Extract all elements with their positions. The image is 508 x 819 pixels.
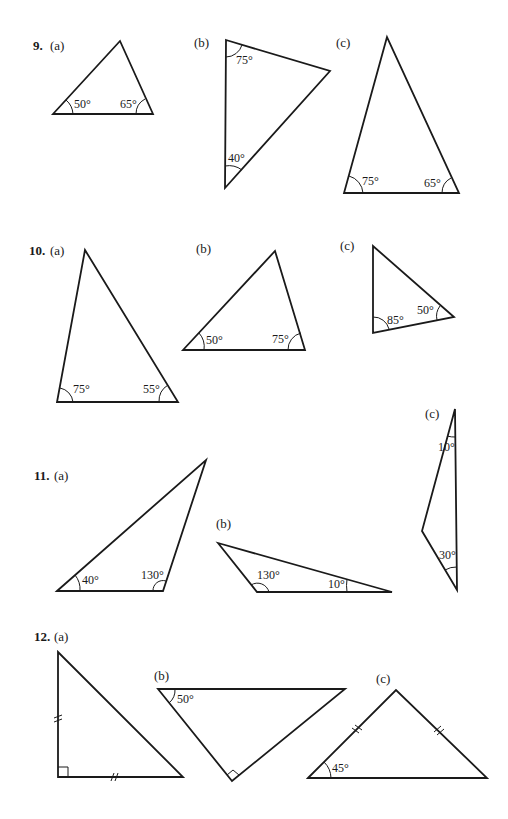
angle-label: 75°	[236, 53, 253, 67]
problem-12: 12. (a) (b) 50° (c) 45°	[34, 629, 487, 781]
angle-label: 45°	[332, 761, 349, 775]
angle-arc	[75, 575, 80, 591]
angle-arc	[199, 333, 204, 350]
problem-10: 10. (a) 75° 55° (b) 50° 75° (c) 85° 50°	[29, 238, 454, 402]
angle-label: 50°	[74, 97, 91, 111]
angle-label: 130°	[141, 568, 164, 582]
angle-label: 50°	[417, 303, 434, 317]
right-angle-mark	[227, 770, 239, 775]
problem-number: 9.	[33, 38, 43, 53]
angle-arc	[60, 388, 73, 402]
angle-label: 40°	[228, 151, 245, 165]
angle-arc	[349, 176, 363, 193]
triangle-shape	[218, 543, 392, 592]
angle-arc	[442, 178, 451, 193]
exercise-sheet: 9. (a) 50° 65° (b) 75° 40° (c) 75° 65°	[0, 0, 508, 819]
angle-label: 130°	[257, 568, 280, 582]
triangle-11b: 130° 10°	[218, 543, 392, 592]
triangle-shape	[422, 409, 457, 590]
angle-arc	[225, 166, 242, 170]
problem-number: 11.	[34, 468, 50, 483]
angle-label: 10°	[438, 440, 455, 454]
problem-9: 9. (a) 50° 65° (b) 75° 40° (c) 75° 65°	[33, 35, 459, 193]
angle-label: 65°	[120, 97, 137, 111]
triangle-11c: 10° 30°	[422, 409, 457, 590]
triangle-10c: 85° 50°	[373, 246, 454, 333]
triangle-shape	[373, 246, 454, 333]
part-label: (c)	[425, 406, 439, 421]
angle-label: 50°	[206, 333, 223, 347]
angle-label: 75°	[362, 174, 379, 188]
problem-number: 10.	[29, 243, 45, 258]
triangle-9b: 75° 40°	[225, 40, 330, 188]
part-label: (a)	[50, 243, 64, 258]
part-label: (a)	[54, 468, 68, 483]
triangle-10b: 50° 75°	[183, 251, 305, 350]
angle-arc	[288, 333, 301, 350]
triangle-9a: 50° 65°	[53, 41, 153, 114]
angle-label: 55°	[143, 382, 160, 396]
triangle-shape	[53, 41, 153, 114]
angle-label: 65°	[424, 176, 441, 190]
problem-11: 11. (a) 40° 130° (b) 130° 10° (c) 10° 30…	[34, 406, 457, 592]
angle-label: 10°	[328, 577, 345, 591]
part-label: (c)	[336, 35, 350, 50]
part-label: (b)	[216, 516, 231, 531]
part-label: (c)	[340, 238, 354, 253]
angle-arc	[324, 762, 331, 778]
angle-label: 85°	[387, 313, 404, 327]
triangle-10a: 75° 55°	[57, 250, 178, 402]
part-label: (a)	[50, 38, 64, 53]
triangle-shape	[57, 250, 178, 402]
triangle-shape	[344, 37, 459, 193]
angle-label: 30°	[439, 548, 456, 562]
angle-arc	[437, 306, 440, 320]
part-label: (b)	[154, 668, 169, 683]
triangle-12c: 45°	[308, 690, 487, 778]
part-label: (a)	[54, 629, 68, 644]
part-label: (b)	[194, 35, 209, 50]
angle-arc	[445, 567, 457, 570]
angle-label: 75°	[73, 382, 90, 396]
right-angle-mark	[58, 767, 68, 777]
angle-label: 75°	[272, 332, 289, 346]
angle-arc	[159, 385, 168, 402]
triangle-11a: 40° 130°	[57, 460, 206, 591]
problem-number: 12.	[34, 629, 50, 644]
triangle-9c: 75° 65°	[344, 37, 459, 193]
angle-arc	[66, 100, 73, 114]
triangle-12b: 50°	[158, 689, 345, 781]
part-label: (b)	[196, 241, 211, 256]
angle-label: 40°	[82, 573, 99, 587]
angle-arc	[169, 689, 175, 703]
angle-arc	[136, 99, 145, 114]
triangle-shape	[57, 460, 206, 591]
part-label: (c)	[376, 671, 390, 686]
angle-label: 50°	[177, 692, 194, 706]
